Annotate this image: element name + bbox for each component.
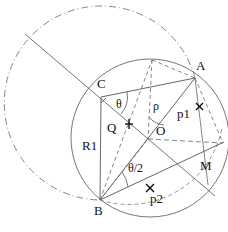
dashed-o-right xyxy=(148,139,223,143)
outer-dashdot-arc xyxy=(4,6,195,200)
label-b: B xyxy=(94,203,103,218)
label-a: A xyxy=(196,58,206,73)
label-o: O xyxy=(156,123,165,138)
segment-cb-r1 xyxy=(100,97,101,200)
label-half-theta: θ/2 xyxy=(128,161,143,175)
label-p1: p1 xyxy=(177,106,190,121)
label-p2: p2 xyxy=(150,191,163,206)
label-m: M xyxy=(200,158,212,173)
dashed-top-o xyxy=(148,60,152,139)
segment-ca xyxy=(101,78,195,97)
segment-ba xyxy=(100,78,195,200)
geometry-diagram: C A B O M Q p1 p2 R1 θ ρ θ/2 xyxy=(0,0,228,232)
label-theta: θ xyxy=(116,97,122,111)
label-q: Q xyxy=(107,120,117,135)
p1-cross-marker xyxy=(196,103,203,110)
theta-angle-arc xyxy=(121,92,127,114)
label-r1: R1 xyxy=(82,138,97,153)
label-c: C xyxy=(97,76,106,91)
label-rho: ρ xyxy=(153,99,159,113)
